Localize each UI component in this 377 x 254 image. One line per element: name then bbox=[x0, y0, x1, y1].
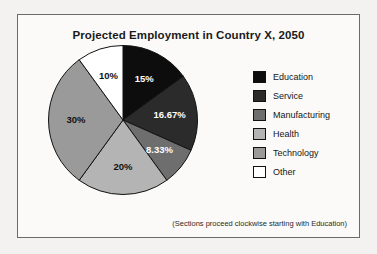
legend-swatch-icon bbox=[253, 128, 266, 140]
page-title: Projected Employment in Country X, 2050 bbox=[18, 29, 359, 41]
legend-item-manufacturing[interactable]: Manufacturing bbox=[253, 105, 358, 124]
pie-slice-value-label: 15% bbox=[135, 73, 155, 84]
pie-slice-value-label: 20% bbox=[113, 161, 133, 172]
legend-item-education[interactable]: Education bbox=[253, 67, 358, 86]
legend-swatch-icon bbox=[253, 90, 266, 102]
pie-chart-svg: 15%16.67%8.33%20%30%10% bbox=[47, 44, 199, 196]
legend: EducationServiceManufacturingHealthTechn… bbox=[253, 67, 358, 181]
legend-swatch-icon bbox=[253, 71, 266, 83]
legend-item-technology[interactable]: Technology bbox=[253, 143, 358, 162]
legend-swatch-icon bbox=[253, 109, 266, 121]
pie-slice-value-label: 8.33% bbox=[146, 144, 173, 155]
legend-item-label: Education bbox=[273, 72, 313, 82]
pie-slice-value-label: 30% bbox=[67, 114, 87, 125]
legend-item-label: Technology bbox=[273, 148, 319, 158]
pie-slice-value-label: 16.67% bbox=[154, 109, 187, 120]
legend-item-label: Manufacturing bbox=[273, 110, 330, 120]
pie-slice-value-label: 10% bbox=[99, 70, 119, 81]
legend-swatch-icon bbox=[253, 166, 266, 178]
legend-item-label: Other bbox=[273, 167, 296, 177]
legend-item-label: Service bbox=[273, 91, 303, 101]
legend-item-label: Health bbox=[273, 129, 299, 139]
legend-item-other[interactable]: Other bbox=[253, 162, 358, 181]
pie-chart: 15%16.67%8.33%20%30%10% bbox=[47, 44, 199, 196]
legend-item-health[interactable]: Health bbox=[253, 124, 358, 143]
legend-item-service[interactable]: Service bbox=[253, 86, 358, 105]
chart-figure: Projected Employment in Country X, 2050 … bbox=[17, 14, 360, 238]
chart-footnote: (Sections proceed clockwise starting wit… bbox=[172, 219, 347, 228]
legend-swatch-icon bbox=[253, 147, 266, 159]
